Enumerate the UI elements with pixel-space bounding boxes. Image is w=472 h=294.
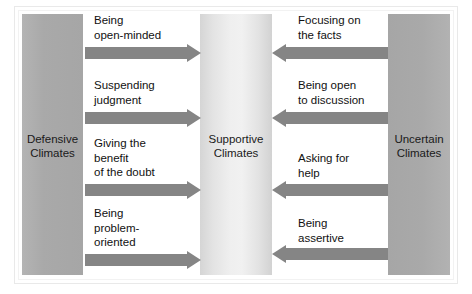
arrow-focusing-on-the-facts [272,44,388,62]
arrow-shaft [85,112,187,124]
climates-diagram: Defensive Climates Supportive Climates U… [0,0,472,294]
arrow-shaft [286,248,388,260]
arrow-being-assertive [272,245,388,263]
arrow-head-left-icon [272,109,286,127]
column-supportive-climates: Supportive Climates [200,14,272,275]
arrow-head-left-icon [272,181,286,199]
arrow-shaft [85,254,187,266]
arrow-being-problem-oriented [85,251,201,269]
arrow-shaft [286,47,388,59]
caption-being-problem-oriented: Being problem- oriented [94,206,139,250]
arrow-head-left-icon [272,44,286,62]
arrow-shaft [85,184,187,196]
arrow-head-right-icon [187,44,201,62]
caption-suspending-judgment: Suspending judgment [94,78,155,107]
column-label-supportive: Supportive Climates [200,132,272,160]
arrow-head-right-icon [187,251,201,269]
arrow-suspending-judgment [85,109,201,127]
arrow-head-right-icon [187,181,201,199]
arrow-shaft [286,112,388,124]
caption-being-assertive: Being assertive [298,216,344,245]
column-uncertain-climates: Uncertain Climates [388,14,450,275]
column-label-uncertain: Uncertain Climates [388,132,450,160]
caption-focusing-on-the-facts: Focusing on the facts [298,13,361,42]
arrow-being-open-minded [85,44,201,62]
arrow-asking-for-help [272,181,388,199]
arrow-head-right-icon [187,109,201,127]
caption-giving-the-benefit-of-the-doubt: Giving the benefit of the doubt [94,136,155,180]
caption-being-open-minded: Being open-minded [94,13,161,42]
caption-asking-for-help: Asking for help [298,151,349,180]
arrow-shaft [286,184,388,196]
caption-being-open-to-discussion: Being open to discussion [298,78,364,107]
column-defensive-climates: Defensive Climates [22,14,83,275]
arrow-head-left-icon [272,245,286,263]
column-label-defensive: Defensive Climates [22,132,83,160]
arrow-giving-the-benefit-of-the-doubt [85,181,201,199]
arrow-shaft [85,47,187,59]
arrow-being-open-to-discussion [272,109,388,127]
